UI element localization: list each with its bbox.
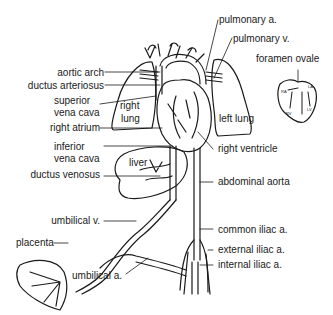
label-right-lung-1: right: [120, 100, 139, 111]
label-liver: liver: [129, 157, 147, 168]
label-umbilical-a: umbilical a.: [72, 270, 122, 281]
label-common-iliac-a: common iliac a.: [218, 224, 287, 235]
label-superior-vena-cava-1: superior: [54, 95, 90, 106]
inset-label-ra: RA: [281, 90, 287, 94]
label-placenta: placenta: [16, 237, 54, 248]
label-ductus-arteriosus: ductus arteriosus: [10, 80, 104, 91]
label-pulmonary-a: pulmonary a.: [219, 14, 277, 25]
inferior-vena-cava: [170, 146, 176, 200]
heart: [157, 80, 211, 152]
label-inferior-vena-cava-1: inferior: [54, 141, 85, 152]
label-aortic-arch: aortic arch: [48, 67, 104, 78]
inset-label-lv: LV: [307, 108, 312, 112]
label-right-atrium: right atrium: [40, 122, 100, 133]
label-left-lung: left lung: [219, 113, 254, 124]
label-right-lung-2: lung: [121, 113, 140, 124]
label-external-iliac-a: external iliac a.: [218, 244, 285, 255]
abdominal-aorta: [194, 148, 200, 260]
label-foramen-ovale: foramen ovale: [256, 53, 319, 64]
label-superior-vena-cava-2: vena cava: [54, 107, 100, 118]
inset-label-rv: RV: [286, 112, 291, 116]
label-internal-iliac-a: internal iliac a.: [218, 259, 282, 270]
inset-label-la: LA: [308, 85, 313, 89]
fetal-circulation-diagram: [0, 0, 333, 315]
label-pulmonary-v: pulmonary v.: [233, 33, 290, 44]
label-ductus-venosus: ductus venosus: [20, 169, 100, 180]
label-umbilical-v: umbilical v.: [40, 215, 100, 226]
label-inferior-vena-cava-2: vena cava: [54, 153, 100, 164]
label-abdominal-aorta: abdominal aorta: [218, 176, 290, 187]
label-right-ventricle: right ventricle: [218, 143, 277, 154]
